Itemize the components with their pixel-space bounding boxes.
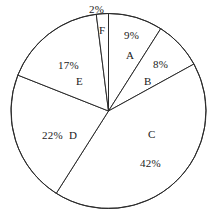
slice-label-e-letter: E	[76, 76, 83, 87]
slice-label-a-letter: A	[126, 50, 134, 61]
slice-label-e-percent: 17%	[58, 60, 79, 71]
pie-chart-svg	[0, 0, 221, 218]
slice-label-d-letter: D	[69, 130, 77, 141]
slice-label-b-letter: B	[144, 76, 152, 87]
slice-label-a-percent: 9%	[124, 30, 139, 41]
slice-label-d-percent: 22%	[42, 130, 63, 141]
slice-label-b-percent: 8%	[153, 59, 168, 70]
pie-chart: 2% F 9% A 8% B C 42% 22% D 17% E	[0, 0, 221, 218]
slice-label-f-letter: F	[99, 25, 105, 36]
slice-label-f-percent: 2%	[89, 4, 104, 15]
slice-label-c-percent: 42%	[140, 158, 161, 169]
pie-slice-group	[11, 14, 206, 209]
slice-label-c-letter: C	[148, 129, 156, 140]
